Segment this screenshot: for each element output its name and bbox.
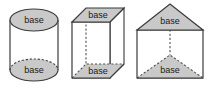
cylinder-top-base-label: base: [24, 15, 44, 25]
cylinder-drawing: base base: [0, 0, 66, 90]
figure-board: base base base base: [0, 0, 208, 90]
cube-bottom-base-label: base: [88, 66, 108, 76]
cube-top-base-label: base: [88, 10, 108, 20]
prism-drawing: base base: [132, 0, 208, 90]
prism-bottom-base-label: base: [160, 65, 180, 75]
cylinder-bottom-base-label: base: [24, 65, 44, 75]
cube-drawing: base base: [66, 0, 130, 90]
figure-triangular-prism: base base: [132, 0, 208, 90]
prism-top-base-label: base: [160, 16, 180, 26]
figure-rectangular-prism: base base: [66, 0, 130, 90]
figure-cylinder: base base: [0, 0, 66, 90]
